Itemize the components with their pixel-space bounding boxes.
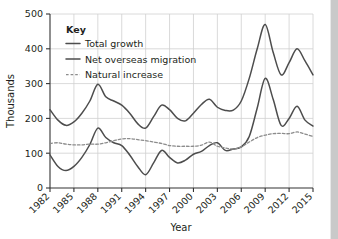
chart-background [0, 0, 338, 239]
legend-title: Key [66, 24, 87, 35]
x-axis-title: Year [169, 222, 192, 233]
y-tick-label: 300 [25, 78, 43, 89]
line-chart: 0100200300400500 19821985198819911994199… [0, 0, 338, 239]
y-tick-label: 200 [25, 113, 43, 124]
y-tick-label: 500 [25, 8, 43, 19]
legend-label-natural-increase: Natural increase [85, 69, 163, 80]
y-tick-label: 400 [25, 43, 43, 54]
chart-canvas: 0100200300400500 19821985198819911994199… [0, 0, 338, 239]
legend-label-total-growth: Total growth [84, 38, 143, 49]
right-edge-strip [331, 0, 338, 239]
y-axis-title: Thousands [5, 74, 16, 129]
y-tick-label: 100 [25, 148, 43, 159]
legend-label-net-overseas-migration: Net overseas migration [85, 54, 196, 65]
